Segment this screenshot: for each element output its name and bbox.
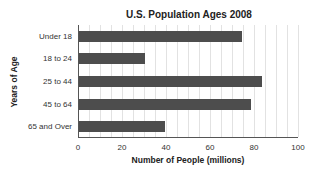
category-label: 18 to 24 — [43, 54, 72, 63]
category-label: Under 18 — [39, 32, 72, 41]
x-tick-label: 100 — [291, 143, 304, 152]
bar — [79, 76, 262, 87]
x-tick-label: 0 — [76, 143, 80, 152]
gridline — [265, 25, 266, 137]
gridline — [287, 25, 288, 137]
plot-area — [78, 25, 298, 138]
bar — [79, 53, 145, 64]
bar — [79, 31, 242, 42]
y-axis-label: Years of Age — [9, 56, 19, 107]
x-axis-label: Number of People (millions) — [78, 155, 298, 165]
x-tick-label: 60 — [206, 143, 215, 152]
x-tick-label: 20 — [118, 143, 127, 152]
x-tick-label: 80 — [250, 143, 259, 152]
gridline — [276, 25, 277, 137]
category-label: 45 to 64 — [43, 100, 72, 109]
bar — [79, 99, 251, 110]
gridline — [298, 25, 299, 137]
category-label: 25 to 44 — [43, 77, 72, 86]
category-label: 65 and Over — [28, 122, 72, 131]
x-tick-label: 40 — [162, 143, 171, 152]
bar — [79, 121, 165, 132]
chart-title: U.S. Population Ages 2008 — [78, 9, 300, 20]
